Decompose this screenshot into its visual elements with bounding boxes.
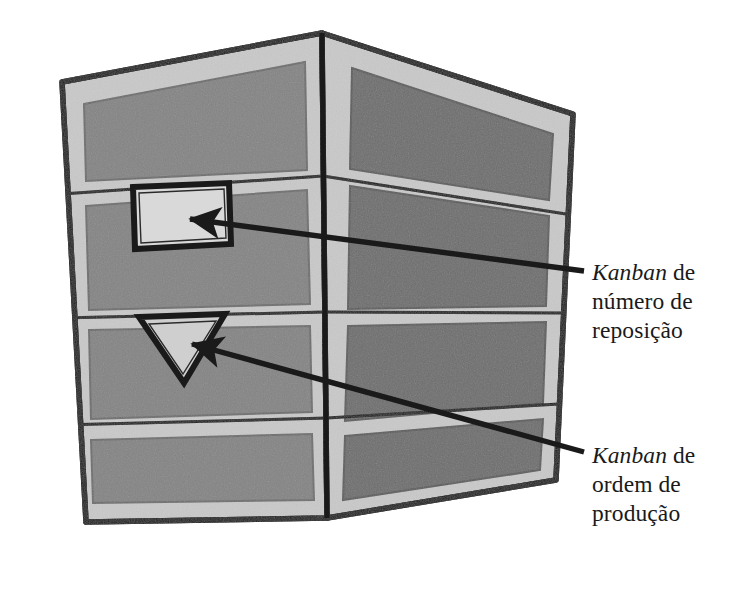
label-line-1: Kanban de bbox=[592, 258, 695, 287]
label-line-3: reposição bbox=[592, 316, 695, 345]
rack-right-face bbox=[322, 33, 573, 518]
rack-left-face bbox=[62, 33, 327, 522]
label-emphasis-word: Kanban bbox=[592, 442, 667, 468]
kanban-rack-figure: Kanban de número de reposição Kanban de … bbox=[0, 0, 735, 593]
label-line-2: ordem de bbox=[592, 470, 695, 499]
label-line-2: número de bbox=[592, 287, 695, 316]
label-line-1-rest: de bbox=[667, 442, 695, 468]
label-kanban-ordem-producao: Kanban de ordem de produção bbox=[592, 441, 695, 528]
kanban-rectangular-card[interactable] bbox=[133, 183, 231, 249]
label-line-3: produção bbox=[592, 499, 695, 528]
label-line-1-rest: de bbox=[667, 259, 695, 285]
label-kanban-numero-reposicao: Kanban de número de reposição bbox=[592, 258, 695, 345]
label-emphasis-word: Kanban bbox=[592, 259, 667, 285]
right-shelf-divider-2 bbox=[325, 312, 562, 313]
label-line-1: Kanban de bbox=[592, 441, 695, 470]
left-panel-row-4 bbox=[91, 434, 314, 503]
